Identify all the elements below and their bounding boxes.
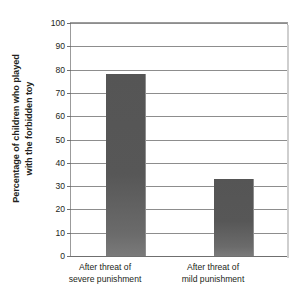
y-tick-mark-30 bbox=[67, 186, 71, 187]
y-tick-label-80: 80 bbox=[55, 65, 65, 74]
y-tick-mark-100 bbox=[67, 23, 71, 24]
y-tick-label-20: 20 bbox=[55, 205, 65, 214]
gridline-30 bbox=[71, 186, 287, 187]
gridline-0 bbox=[71, 256, 287, 257]
gridline-90 bbox=[71, 46, 287, 47]
y-tick-label-10: 10 bbox=[55, 228, 65, 237]
x-category-label-severe-line-1: After threat of bbox=[79, 262, 131, 272]
y-axis-title-line-2: with the forbidden toy bbox=[23, 82, 33, 176]
y-axis-title: Percentage of children who played with t… bbox=[0, 0, 44, 257]
y-tick-label-50: 50 bbox=[55, 135, 65, 144]
y-tick-mark-10 bbox=[67, 233, 71, 234]
y-tick-label-30: 30 bbox=[55, 182, 65, 191]
y-tick-label-60: 60 bbox=[55, 112, 65, 121]
y-tick-label-70: 70 bbox=[55, 89, 65, 98]
y-axis-title-line-1: Percentage of children who played bbox=[11, 54, 21, 202]
bar-severe-punishment bbox=[106, 74, 146, 256]
y-tick-mark-20 bbox=[67, 209, 71, 210]
plot-area: 100 90 80 70 60 50 4 bbox=[70, 22, 288, 257]
y-tick-label-0: 0 bbox=[60, 252, 65, 261]
gridline-10 bbox=[71, 233, 287, 234]
y-tick-mark-0 bbox=[67, 256, 71, 257]
gridline-70 bbox=[71, 93, 287, 94]
bar-mild-punishment bbox=[214, 179, 254, 256]
y-tick-label-40: 40 bbox=[55, 159, 65, 168]
y-tick-mark-90 bbox=[67, 46, 71, 47]
bar-chart-figure: Percentage of children who played with t… bbox=[0, 0, 301, 305]
y-tick-label-90: 90 bbox=[55, 42, 65, 51]
y-tick-mark-80 bbox=[67, 70, 71, 71]
gridline-40 bbox=[71, 163, 287, 164]
y-tick-label-100: 100 bbox=[51, 19, 65, 28]
y-tick-mark-70 bbox=[67, 93, 71, 94]
gridline-60 bbox=[71, 116, 287, 117]
gridline-20 bbox=[71, 209, 287, 210]
x-category-label-mild-line-1: After threat of bbox=[187, 262, 239, 272]
y-tick-mark-50 bbox=[67, 140, 71, 141]
x-category-label-mild: After threat of mild punishment bbox=[148, 262, 278, 285]
gridline-100 bbox=[71, 23, 287, 24]
y-tick-mark-40 bbox=[67, 163, 71, 164]
x-category-label-mild-line-2: mild punishment bbox=[148, 274, 278, 286]
gridline-80 bbox=[71, 70, 287, 71]
gridline-50 bbox=[71, 140, 287, 141]
y-tick-mark-60 bbox=[67, 116, 71, 117]
